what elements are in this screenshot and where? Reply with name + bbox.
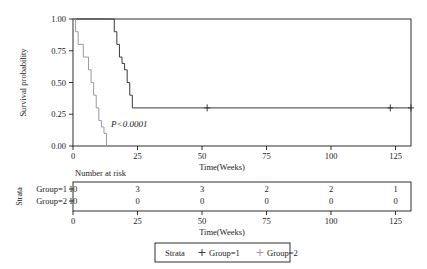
risk-cell-r1-c2: 3 <box>135 184 139 194</box>
risk-cell-r2-c6: 0 <box>393 196 397 206</box>
risk-table-title: Number at risk <box>75 168 127 178</box>
risk-x-tick-label-2: 50 <box>198 216 207 226</box>
y-tick-label-1: 0.25 <box>51 109 66 119</box>
pvalue-annotation: P<0.0001 <box>110 119 147 129</box>
risk-x-axis-label: Time(Weeks) <box>199 227 245 237</box>
x-tick-label-4: 100 <box>325 151 338 161</box>
risk-x-tick-label-3: 75 <box>262 216 271 226</box>
risk-cell-r1-c4: 2 <box>264 184 268 194</box>
survival-curve-group-2 <box>73 19 107 146</box>
risk-cell-r2-c5: 0 <box>329 196 333 206</box>
risk-cell-r2-c1: 10 <box>69 196 78 206</box>
risk-cell-r1-c3: 3 <box>200 184 204 194</box>
x-tick-label-2: 50 <box>198 151 207 161</box>
x-tick-label-5: 125 <box>389 151 402 161</box>
x-tick-label-0: 0 <box>71 151 75 161</box>
risk-x-tick-label-4: 100 <box>325 216 338 226</box>
x-axis-label: Time(Weeks) <box>199 162 245 172</box>
kaplan-meier-figure: 0.000.250.500.751.00Survival probability… <box>0 0 427 269</box>
risk-x-tick-label-0: 0 <box>71 216 75 226</box>
y-axis-label: Survival probability <box>18 48 28 117</box>
survival-curve-group-1 <box>73 19 411 108</box>
risk-x-tick-label-1: 25 <box>133 216 142 226</box>
risk-row-label-1: Group=1 <box>36 184 67 194</box>
risk-cell-r1-c6: 1 <box>393 184 397 194</box>
risk-cell-r1-c1: 10 <box>69 184 78 194</box>
legend-label-1: Group=1 <box>209 248 240 258</box>
risk-x-tick-label-5: 125 <box>389 216 402 226</box>
x-tick-label-3: 75 <box>262 151 271 161</box>
risk-cell-r2-c4: 0 <box>264 196 268 206</box>
risk-cell-r2-c2: 0 <box>135 196 139 206</box>
y-tick-label-4: 1.00 <box>51 14 66 24</box>
y-tick-label-0: 0.00 <box>51 141 66 151</box>
y-tick-label-2: 0.50 <box>51 78 66 88</box>
legend-label-2: Group=2 <box>267 248 298 258</box>
x-tick-label-1: 25 <box>133 151 142 161</box>
risk-table-frame <box>73 182 411 211</box>
risk-row-label-2: Group=2 <box>36 196 67 206</box>
km-plot-svg: 0.000.250.500.751.00Survival probability… <box>0 0 427 269</box>
risk-cell-r1-c5: 2 <box>329 184 333 194</box>
risk-cell-r2-c3: 0 <box>200 196 204 206</box>
y-tick-label-3: 0.75 <box>51 46 66 56</box>
legend-title: Strata <box>165 248 185 258</box>
risk-table-strata-label: Strata <box>15 187 24 206</box>
